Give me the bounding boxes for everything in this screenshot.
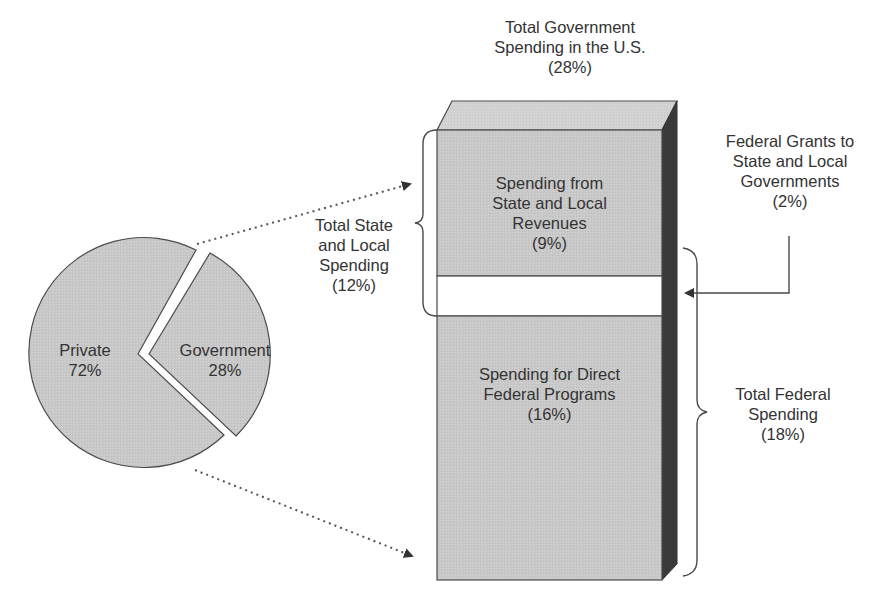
segment-label-direct-federal-line1: Spending for Direct [437,364,662,384]
segment-label-direct-federal: Spending for Direct Federal Programs (16… [437,364,662,424]
annotation-federal: Total Federal Spending (18%) [718,384,848,444]
bar-title: Total Government Spending in the U.S. (2… [450,17,690,77]
connector-arrow-bottom [195,470,412,556]
annotation-grants-line3: Governments [700,171,880,191]
annotation-grants-value: (2%) [700,191,880,211]
bar-segment-direct-federal [437,316,662,580]
annotation-federal-line2: Spending [718,404,848,424]
annotation-state-local-line2: and Local [296,235,412,255]
brace-state-local [415,130,437,316]
segment-label-state-local-value: (9%) [437,233,662,253]
annotation-federal-line1: Total Federal [718,384,848,404]
segment-label-state-local: Spending from State and Local Revenues (… [437,173,662,253]
pie-label-private: Private 72% [40,340,130,380]
pie-label-private-value: 72% [40,360,130,380]
annotation-federal-value: (18%) [718,424,848,444]
diagram-canvas [0,0,886,595]
grants-callout-arrow [686,236,789,293]
annotation-grants-line2: State and Local [700,151,880,171]
bar-segment-federal-grants [437,276,662,316]
annotation-state-local: Total State and Local Spending (12%) [296,215,412,295]
pie-label-private-name: Private [40,340,130,360]
bar-title-value: (28%) [450,57,690,77]
annotation-state-local-line1: Total State [296,215,412,235]
segment-label-state-local-line1: Spending from [437,173,662,193]
bar-side-face [662,101,677,580]
bar-top-face [437,101,677,130]
annotation-grants: Federal Grants to State and Local Govern… [700,131,880,211]
annotation-state-local-value: (12%) [296,275,412,295]
pie-label-government: Government 28% [160,340,290,380]
bar-title-line1: Total Government [450,17,690,37]
segment-label-direct-federal-line2: Federal Programs [437,384,662,404]
segment-label-direct-federal-value: (16%) [437,404,662,424]
segment-label-state-local-line2: State and Local [437,193,662,213]
annotation-state-local-line3: Spending [296,255,412,275]
brace-federal [683,248,707,576]
pie-label-government-name: Government [160,340,290,360]
annotation-grants-line1: Federal Grants to [700,131,880,151]
bar-title-line2: Spending in the U.S. [450,37,690,57]
pie-label-government-value: 28% [160,360,290,380]
segment-label-state-local-line3: Revenues [437,213,662,233]
